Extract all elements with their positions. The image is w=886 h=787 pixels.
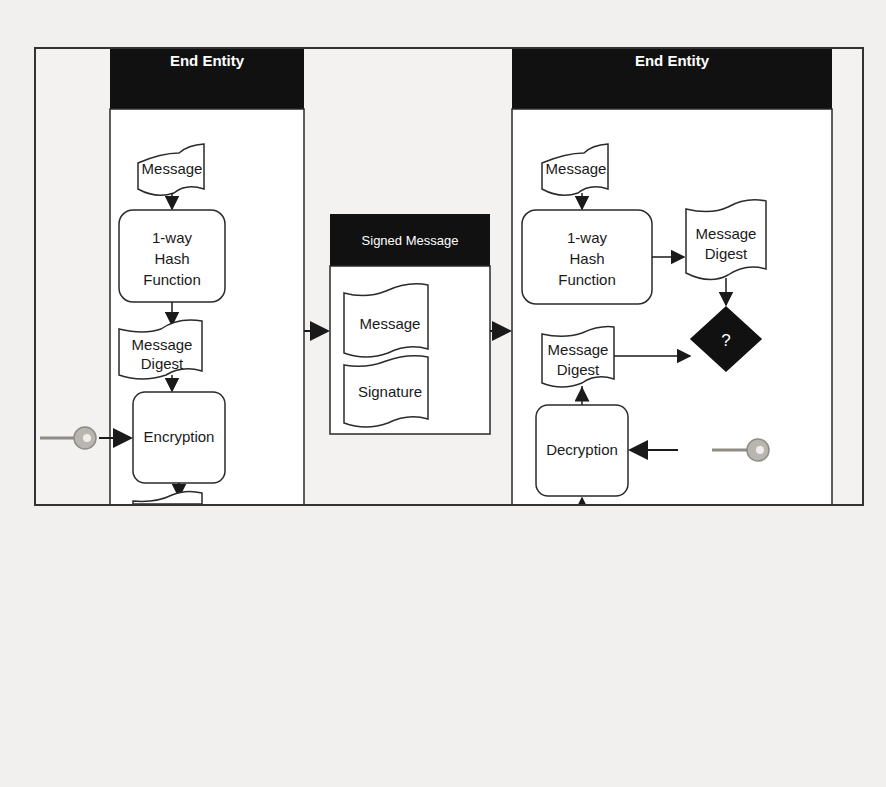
sender-hash-label-2: Hash bbox=[154, 250, 189, 267]
receiver-hash-label-1: 1-way bbox=[567, 229, 608, 246]
signed-message-message-label: Message bbox=[360, 315, 421, 332]
receiver-title: End Entity bbox=[635, 52, 710, 69]
receiver-hash-label-3: Function bbox=[558, 271, 616, 288]
signed-message-signature-label: Signature bbox=[358, 383, 422, 400]
sender-encryption-label: Encryption bbox=[144, 428, 215, 445]
sender-digest-label-2: Digest bbox=[141, 355, 184, 372]
sender-title: End Entity bbox=[170, 52, 245, 69]
receiver-computed-digest-label-2: Digest bbox=[705, 245, 748, 262]
sender-hash-label-1: 1-way bbox=[152, 229, 193, 246]
sender-message-label: Message bbox=[142, 160, 203, 177]
signed-message-package: Signed Message Message Signature bbox=[330, 214, 490, 434]
sender-hash-label-3: Function bbox=[143, 271, 201, 288]
receiver-decrypted-digest-label-2: Digest bbox=[557, 361, 600, 378]
signature-flow-diagram: End Entity Message 1-way Hash Function M… bbox=[36, 49, 862, 504]
receiver-message-label: Message bbox=[546, 160, 607, 177]
receiver-decryption-label: Decryption bbox=[546, 441, 618, 458]
receiver-compare-label: ? bbox=[721, 331, 730, 350]
receiver-decrypted-digest-label-1: Message bbox=[548, 341, 609, 358]
sender-end-entity: End Entity Message 1-way Hash Function M… bbox=[110, 49, 304, 504]
receiver-end-entity: End Entity Message 1-way Hash Function M… bbox=[512, 49, 832, 504]
receiver-computed-digest-label-1: Message bbox=[696, 225, 757, 242]
figure-frame: End Entity Message 1-way Hash Function M… bbox=[34, 47, 864, 506]
signed-message-title: Signed Message bbox=[362, 233, 459, 248]
sender-digest-label-1: Message bbox=[132, 336, 193, 353]
receiver-hash-label-2: Hash bbox=[569, 250, 604, 267]
